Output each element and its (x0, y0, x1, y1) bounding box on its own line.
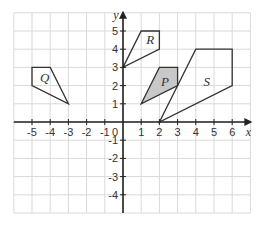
y-tick-label: 2 (112, 80, 118, 92)
y-tick-label: -3 (108, 171, 118, 183)
shape-label-s: S (203, 74, 210, 89)
x-tick-label: -3 (64, 126, 74, 138)
x-axis-label: x (245, 125, 252, 139)
shape-label-p: P (160, 74, 169, 89)
shape-label-r: R (145, 32, 154, 47)
x-tick-label: -4 (45, 126, 55, 138)
origin-label: 0 (112, 126, 118, 138)
x-tick-label: 4 (193, 126, 199, 138)
shapes (32, 31, 232, 122)
coordinate-plane: QRPS-5-4-3-2-112345654321-1-2-3-40xy (0, 0, 263, 229)
y-tick-label: 5 (112, 25, 118, 37)
shape-label-q: Q (40, 70, 50, 85)
y-tick-label: 1 (112, 98, 118, 110)
y-tick-label: -4 (108, 189, 118, 201)
x-tick-label: -2 (82, 126, 92, 138)
x-tick-label: 5 (211, 126, 217, 138)
x-tick-label: 1 (138, 126, 144, 138)
axes (14, 11, 253, 213)
coordinate-grid-diagram: QRPS-5-4-3-2-112345654321-1-2-3-40xy (0, 0, 263, 229)
x-tick-label: 6 (229, 126, 235, 138)
x-tick-label: 2 (156, 126, 162, 138)
x-tick-label: -5 (27, 126, 37, 138)
y-axis-label: y (112, 8, 119, 22)
y-tick-label: 4 (112, 43, 118, 55)
y-axis-arrow-icon (119, 11, 127, 19)
x-tick-label: 3 (175, 126, 181, 138)
y-tick-label: 3 (112, 61, 118, 73)
y-tick-label: -2 (108, 152, 118, 164)
grid-lines (14, 13, 251, 213)
